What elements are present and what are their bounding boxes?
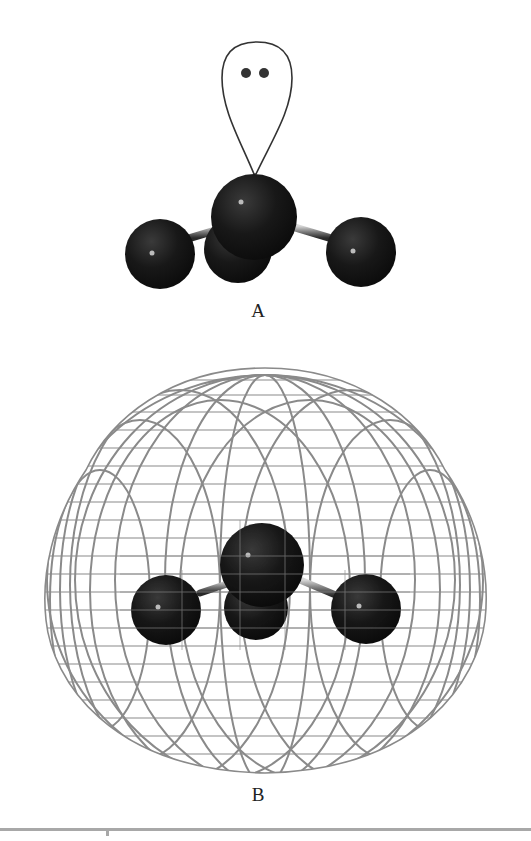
highlight — [156, 605, 161, 610]
molecule-figure: A — [0, 0, 531, 841]
highlight — [246, 553, 251, 558]
divider-tick — [106, 828, 109, 836]
highlight — [357, 604, 362, 609]
divider-rule — [0, 828, 531, 831]
atom-right — [331, 574, 401, 644]
bond — [300, 580, 338, 596]
atom-central — [220, 523, 304, 607]
molecule-b — [131, 523, 401, 645]
panel-b-diagram — [0, 0, 531, 841]
panel-b-label: B — [238, 784, 278, 806]
